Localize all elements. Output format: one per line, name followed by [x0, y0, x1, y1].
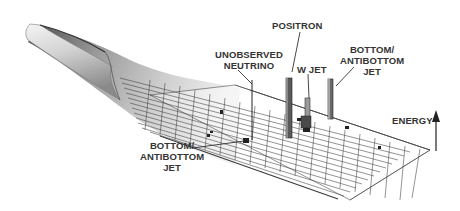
energy-grid	[120, 78, 430, 200]
label-unobserved-neutrino: UNOBSERVED NEUTRINO	[215, 49, 283, 71]
label-w-jet: W JET	[297, 64, 327, 75]
energy-axis-arrow-icon	[432, 110, 440, 151]
event-display-diagram: POSITRON UNOBSERVED NEUTRINO W JET BOTTO…	[0, 0, 460, 211]
label-energy-axis: ENERGY	[392, 115, 433, 126]
label-bottom-jet-right: BOTTOM/ ANTIBOTTOM JET	[340, 44, 404, 77]
positron-tower	[286, 78, 292, 138]
bottom-jet-tower-right	[328, 79, 333, 119]
label-positron: POSITRON	[272, 20, 322, 31]
label-bottom-jet-left: BOTTOM/ ANTIBOTTOM JET	[140, 140, 204, 173]
